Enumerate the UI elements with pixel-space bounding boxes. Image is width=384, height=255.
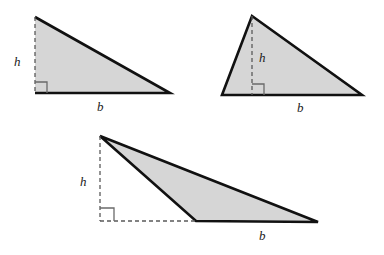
obtuse-triangle-right-angle-marker xyxy=(100,208,114,221)
triangle-figure: h b h b h b xyxy=(0,0,384,255)
obtuse-triangle-height-label: h xyxy=(80,175,87,188)
acute-triangle-group xyxy=(222,16,362,95)
right-triangle-base-label: b xyxy=(97,100,104,113)
figure-canvas xyxy=(0,0,384,255)
right-triangle-group xyxy=(35,17,170,93)
right-triangle-height-label: h xyxy=(14,55,21,68)
obtuse-triangle-base-label: b xyxy=(259,229,266,242)
acute-triangle-fill xyxy=(222,16,362,95)
acute-triangle-height-label: h xyxy=(259,51,266,64)
obtuse-triangle-group xyxy=(100,136,318,222)
acute-triangle-base-label: b xyxy=(297,101,304,114)
